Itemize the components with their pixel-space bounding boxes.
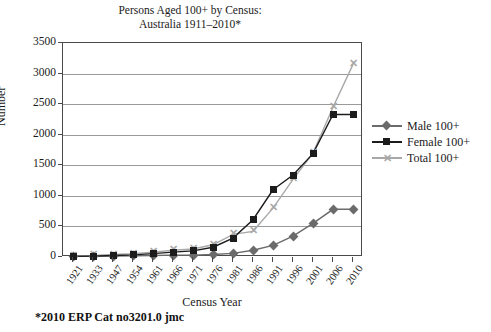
data-point-square bbox=[190, 247, 197, 254]
footnote: *2010 ERP Cat no3201.0 jmc bbox=[35, 310, 184, 325]
data-point-square bbox=[110, 252, 117, 259]
data-point-square bbox=[290, 172, 297, 179]
x-axis-tick-mark bbox=[332, 257, 333, 262]
legend-item[interactable]: ✕Total 100+ bbox=[372, 150, 490, 166]
legend-swatch bbox=[372, 119, 402, 133]
data-point-square bbox=[150, 250, 157, 257]
legend-marker-cross: ✕ bbox=[383, 153, 392, 163]
data-point-square bbox=[230, 235, 237, 242]
x-axis-tick-mark bbox=[312, 257, 313, 262]
legend: Male 100+Female 100+✕Total 100+ bbox=[372, 118, 490, 166]
x-axis-tick-mark bbox=[272, 257, 273, 262]
series-lines bbox=[63, 43, 363, 257]
data-point-square bbox=[90, 253, 97, 260]
legend-swatch: ✕ bbox=[372, 151, 402, 165]
y-axis-tick-label: 3500 bbox=[2, 36, 56, 47]
x-axis-tick-mark bbox=[92, 257, 93, 262]
chart-figure: Persons Aged 100+ by Census: Australia 1… bbox=[0, 0, 491, 332]
data-point-square bbox=[350, 111, 357, 118]
legend-marker-square bbox=[383, 138, 390, 145]
y-axis-tick-label: 1500 bbox=[2, 158, 56, 169]
legend-item[interactable]: Male 100+ bbox=[372, 118, 490, 134]
y-axis-tick-label: 500 bbox=[2, 219, 56, 230]
data-point-square bbox=[250, 216, 257, 223]
y-axis-tick-label: 3000 bbox=[2, 67, 56, 78]
x-axis-tick-mark bbox=[112, 257, 113, 262]
series-line-square bbox=[73, 115, 353, 257]
data-point-cross: ✕ bbox=[348, 59, 358, 69]
legend-item[interactable]: Female 100+ bbox=[372, 134, 490, 150]
legend-marker-diamond bbox=[382, 121, 392, 131]
data-point-square bbox=[130, 251, 137, 258]
legend-label: Total 100+ bbox=[402, 151, 459, 166]
x-axis-tick-mark bbox=[132, 257, 133, 262]
chart-title-line-2: Australia 1911–2010* bbox=[0, 17, 380, 31]
data-point-cross: ✕ bbox=[268, 203, 278, 213]
y-axis-tick-label: 2500 bbox=[2, 97, 56, 108]
data-point-square bbox=[270, 186, 277, 193]
x-axis-tick-mark bbox=[72, 257, 73, 262]
page-title: Persons Aged 100+ by Census: Australia 1… bbox=[0, 3, 380, 31]
legend-label: Female 100+ bbox=[402, 135, 470, 150]
data-point-square bbox=[310, 150, 317, 157]
data-point-square bbox=[210, 244, 217, 251]
x-axis-tick-mark bbox=[152, 257, 153, 262]
y-axis-tick-label: 0 bbox=[2, 250, 56, 261]
y-axis-tick-mark bbox=[58, 256, 62, 257]
legend-swatch bbox=[372, 135, 402, 149]
x-axis-tick-mark bbox=[352, 257, 353, 262]
x-axis-tick-mark bbox=[172, 257, 173, 262]
x-axis-tick-mark bbox=[232, 257, 233, 262]
plot-area: ✕✕✕✕✕✕✕✕✕✕✕✕✕✕✕ bbox=[62, 42, 362, 256]
x-axis-tick-mark bbox=[192, 257, 193, 262]
x-axis-title: Census Year bbox=[62, 295, 362, 310]
data-point-square bbox=[70, 253, 77, 260]
legend-label: Male 100+ bbox=[402, 119, 459, 134]
series-line-cross bbox=[73, 64, 353, 255]
x-axis-tick-mark bbox=[292, 257, 293, 262]
x-axis-tick-mark bbox=[212, 257, 213, 262]
y-axis-tick-label: 2000 bbox=[2, 128, 56, 139]
data-point-cross: ✕ bbox=[248, 226, 258, 236]
x-axis-tick-mark bbox=[252, 257, 253, 262]
data-point-square bbox=[330, 111, 337, 118]
y-axis-tick-label: 1000 bbox=[2, 189, 56, 200]
data-point-square bbox=[170, 249, 177, 256]
chart-title-line-1: Persons Aged 100+ by Census: bbox=[0, 3, 380, 17]
